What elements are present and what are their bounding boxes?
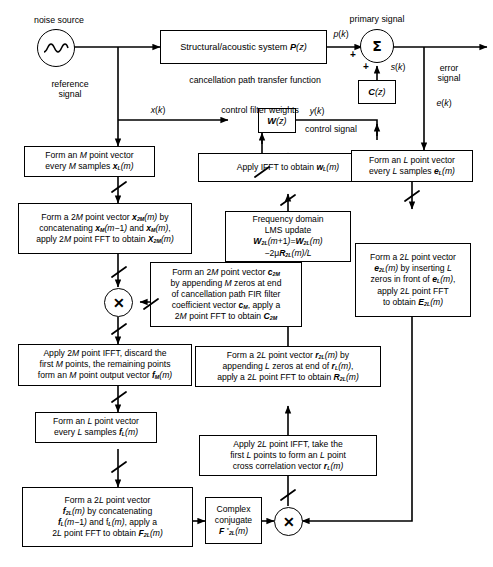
bus-slash-marks bbox=[0, 0, 493, 567]
block-diagram: noise source Structural/acoustic system … bbox=[0, 0, 493, 567]
